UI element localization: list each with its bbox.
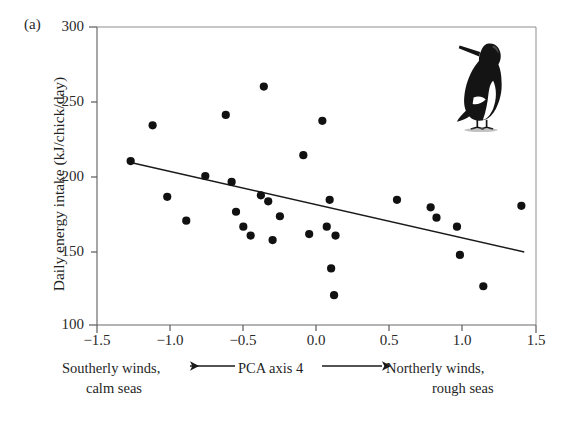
scatter-point — [149, 121, 157, 129]
scatter-point — [305, 230, 313, 238]
guillemot-bird-illustration — [457, 43, 502, 131]
scatter-point — [326, 196, 334, 204]
x-axis-ticks — [97, 325, 536, 333]
scatter-point — [393, 196, 401, 204]
scatter-point — [432, 214, 440, 222]
axis-spines — [97, 27, 536, 325]
scatter-point — [182, 217, 190, 225]
plot-canvas — [0, 0, 572, 426]
scatter-point — [239, 223, 247, 231]
scatter-point — [479, 282, 487, 290]
scatter-point — [330, 291, 338, 299]
scatter-point — [453, 223, 461, 231]
y-axis-ticks — [89, 27, 97, 325]
regression-line — [131, 163, 525, 252]
scatter-point — [127, 157, 135, 165]
scatter-point — [517, 202, 525, 210]
figure-panel: (a) Daily energy intake (kJ/chick/day) 3… — [0, 0, 572, 426]
scatter-point — [323, 223, 331, 231]
scatter-point — [269, 236, 277, 244]
scatter-point — [331, 232, 339, 240]
scatter-point — [318, 117, 326, 125]
scatter-point — [327, 264, 335, 272]
scatter-point — [228, 178, 236, 186]
scatter-point — [257, 191, 265, 199]
scatter-point — [264, 197, 272, 205]
scatter-point — [276, 212, 284, 220]
scatter-point — [260, 83, 268, 91]
scatter-point — [222, 111, 230, 119]
scatter-point — [456, 251, 464, 259]
scatter-point — [232, 208, 240, 216]
scatter-point — [163, 193, 171, 201]
scatter-point — [247, 232, 255, 240]
scatter-point — [201, 172, 209, 180]
scatter-point — [427, 203, 435, 211]
scatter-point — [299, 151, 307, 159]
